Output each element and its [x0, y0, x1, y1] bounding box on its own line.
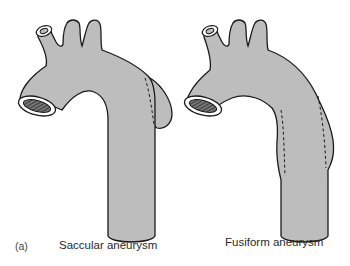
aneurysm-figure [0, 0, 350, 266]
fusiform-caption: Fusiform aneurysm [225, 236, 323, 248]
saccular-aneurysm-diagram [16, 20, 172, 242]
fusiform-aorta [186, 20, 334, 242]
fusiform-aneurysm-diagram [182, 20, 333, 242]
panel-label: (a) [15, 240, 28, 252]
saccular-caption: Saccular aneurysm [59, 239, 157, 251]
saccular-aorta [20, 20, 155, 242]
